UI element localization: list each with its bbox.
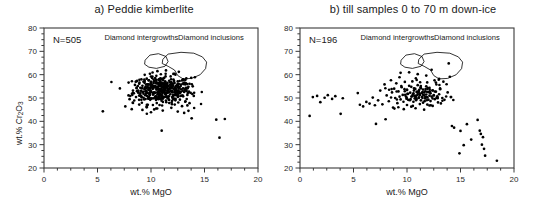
data-point: [154, 85, 157, 88]
data-point: [190, 77, 193, 80]
data-point: [481, 143, 484, 146]
data-point: [179, 98, 182, 101]
data-point: [412, 105, 415, 108]
data-point: [429, 90, 432, 93]
data-point: [167, 89, 170, 92]
data-point: [188, 102, 191, 105]
data-point: [435, 83, 438, 86]
data-point: [404, 81, 407, 84]
data-point: [151, 88, 154, 91]
x-tick-label: 20: [254, 175, 263, 184]
data-point: [146, 86, 149, 89]
data-point: [171, 91, 174, 94]
y-tick-label: 60: [284, 71, 293, 80]
data-point: [154, 96, 157, 99]
data-point: [140, 90, 143, 93]
data-point: [141, 85, 144, 88]
data-point: [420, 99, 423, 102]
data-point: [316, 95, 319, 98]
y-tick-label: 20: [284, 164, 293, 173]
data-point: [399, 98, 402, 101]
data-point: [138, 79, 141, 82]
data-point: [438, 93, 441, 96]
data-point: [413, 87, 416, 90]
data-point: [164, 72, 167, 75]
data-point: [419, 86, 422, 89]
data-point: [160, 129, 163, 132]
data-point: [391, 91, 394, 94]
data-point: [177, 95, 180, 98]
data-point: [432, 94, 435, 97]
data-point: [450, 96, 453, 99]
data-point: [436, 95, 439, 98]
data-point: [165, 96, 168, 99]
data-point: [191, 83, 194, 86]
x-axis-title: wt.% MgO: [385, 187, 428, 197]
data-point: [131, 80, 134, 83]
data-point: [430, 68, 433, 71]
data-point: [379, 89, 382, 92]
data-point: [172, 94, 175, 97]
data-point: [462, 144, 465, 147]
data-point: [162, 97, 165, 100]
data-point: [164, 75, 167, 78]
data-point: [102, 110, 105, 113]
data-point: [148, 97, 151, 100]
data-point: [169, 75, 172, 78]
data-point: [176, 110, 179, 113]
data-point: [215, 118, 218, 121]
data-point: [438, 84, 441, 87]
data-point: [377, 99, 380, 102]
data-point: [476, 119, 479, 122]
data-point: [423, 100, 426, 103]
data-point: [416, 84, 419, 87]
data-point: [174, 86, 177, 89]
data-point: [150, 111, 153, 114]
data-point: [183, 112, 186, 115]
data-point: [433, 79, 436, 82]
data-point: [143, 80, 146, 83]
data-point: [398, 95, 401, 98]
data-point: [188, 82, 191, 85]
data-point: [143, 74, 146, 77]
scatter-points: [308, 62, 498, 162]
data-point: [423, 108, 426, 111]
data-point: [395, 82, 398, 85]
data-point: [132, 102, 135, 105]
data-point: [433, 90, 436, 93]
data-point: [429, 104, 432, 107]
data-point: [193, 92, 196, 95]
diamond-inclusions-field: [418, 52, 462, 79]
data-point: [383, 83, 386, 86]
data-point: [186, 83, 189, 86]
data-point: [179, 95, 182, 98]
data-point: [156, 70, 159, 73]
data-point: [341, 97, 344, 100]
data-point: [200, 91, 203, 94]
data-point: [168, 98, 171, 101]
data-point: [406, 93, 409, 96]
y-tick-label: 80: [284, 24, 293, 33]
panel-a-plot: 05101520wt.% MgO20304050607080N=505Diamo…: [0, 0, 274, 220]
data-point: [484, 154, 487, 157]
y-tick-label: 40: [284, 117, 293, 126]
data-point: [157, 85, 160, 88]
data-point: [134, 84, 137, 87]
diamond-intergrowths-label: Diamond intergrowths: [360, 33, 434, 42]
data-point: [446, 91, 449, 94]
data-point: [218, 136, 221, 139]
panel-till-samples: b) till samples 0 to 70 m down-ice 05101…: [274, 0, 548, 220]
data-point: [424, 96, 427, 99]
data-point: [155, 79, 158, 82]
scatter-points: [102, 69, 227, 139]
data-point: [311, 96, 314, 99]
data-point: [384, 87, 387, 90]
data-point: [396, 102, 399, 105]
data-point: [401, 94, 404, 97]
y-tick-label: 50: [28, 94, 37, 103]
data-point: [410, 95, 413, 98]
sample-count-label: N=505: [53, 34, 81, 45]
data-point: [135, 86, 138, 89]
data-point: [176, 84, 179, 87]
data-point: [124, 105, 127, 108]
